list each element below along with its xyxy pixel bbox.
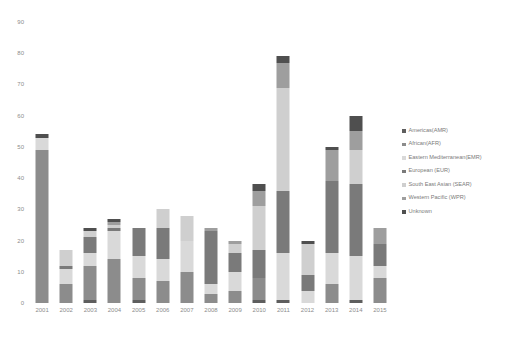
legend-item[interactable]: Americas(AMR) [402, 124, 512, 138]
bar-segment [229, 291, 242, 303]
bar-segment [84, 266, 97, 300]
bar-segment [277, 253, 290, 300]
y-axis-tick-label: 40 [17, 175, 24, 181]
bar-segment [373, 266, 386, 278]
chart-legend: Americas(AMR)African(AFR)Eastern Mediter… [402, 124, 512, 219]
x-axis-tick-label: 2002 [60, 307, 73, 313]
bar-2013[interactable] [325, 147, 338, 303]
legend-swatch-icon [402, 170, 406, 174]
y-axis-tick-label: 10 [17, 269, 24, 275]
y-axis-tick-label: 50 [17, 144, 24, 150]
x-axis-tick-label: 2006 [156, 307, 169, 313]
bar-segment [349, 116, 362, 132]
bar-segment [349, 184, 362, 256]
bar-2008[interactable] [205, 228, 218, 303]
legend-label: South East Asian (SEAR) [409, 182, 472, 188]
bar-2015[interactable] [373, 228, 386, 303]
bar-2003[interactable] [84, 228, 97, 303]
legend-label: Western Pacific (WPR) [409, 195, 466, 201]
bar-2006[interactable] [156, 209, 169, 303]
bar-2005[interactable] [132, 228, 145, 303]
x-axis: 2001200220032004200520062007200820092010… [30, 307, 392, 323]
x-axis-tick-label: 2007 [180, 307, 193, 313]
bar-segment [205, 294, 218, 303]
bar-segment [253, 250, 266, 278]
bar-segment [325, 284, 338, 303]
bar-segment [253, 300, 266, 303]
legend-item[interactable]: Western Pacific (WPR) [402, 192, 512, 206]
bar-segment [349, 256, 362, 300]
legend-item[interactable]: African(AFR) [402, 138, 512, 152]
legend-label: Americas(AMR) [409, 128, 448, 134]
chart-container: 0102030405060708090 20012002200320042005… [0, 0, 512, 339]
bar-2007[interactable] [180, 216, 193, 303]
y-axis-tick-label: 70 [17, 81, 24, 87]
bar-2009[interactable] [229, 241, 242, 303]
y-axis: 0102030405060708090 [0, 0, 30, 339]
legend-item[interactable]: South East Asian (SEAR) [402, 178, 512, 192]
legend-item[interactable]: European (EUR) [402, 165, 512, 179]
bar-segment [229, 253, 242, 272]
bar-segment [180, 216, 193, 241]
bar-segment [84, 253, 97, 265]
bar-segment [60, 269, 73, 285]
bar-2012[interactable] [301, 241, 314, 303]
bar-segment [156, 228, 169, 259]
x-axis-tick-label: 2013 [325, 307, 338, 313]
y-axis-tick-label: 90 [17, 19, 24, 25]
plot-area [30, 22, 392, 303]
bar-2004[interactable] [108, 219, 121, 303]
bar-segment [132, 228, 145, 256]
legend-swatch-icon [402, 210, 406, 214]
bar-segment [60, 284, 73, 303]
x-axis-tick-label: 2010 [253, 307, 266, 313]
legend-label: Eastern Mediterranean(EMR) [409, 155, 482, 161]
bar-segment [325, 150, 338, 181]
legend-item[interactable]: Unknown [402, 205, 512, 219]
bar-segment [277, 300, 290, 303]
legend-swatch-icon [402, 143, 406, 147]
bar-segment [84, 300, 97, 303]
bar-segment [60, 250, 73, 266]
bar-segment [349, 150, 362, 184]
bar-segment [277, 191, 290, 253]
y-axis-tick-label: 20 [17, 238, 24, 244]
bar-segment [180, 272, 193, 303]
bar-2001[interactable] [36, 134, 49, 303]
x-axis-tick-label: 2005 [132, 307, 145, 313]
legend-label: European (EUR) [409, 168, 450, 174]
bar-segment [301, 291, 314, 303]
bar-2010[interactable] [253, 184, 266, 303]
bar-2002[interactable] [60, 250, 73, 303]
legend-item[interactable]: Eastern Mediterranean(EMR) [402, 151, 512, 165]
x-axis-tick-label: 2012 [301, 307, 314, 313]
bar-segment [132, 300, 145, 303]
bar-2011[interactable] [277, 56, 290, 303]
bar-2014[interactable] [349, 116, 362, 303]
bar-segment [253, 206, 266, 250]
bar-segment [205, 284, 218, 293]
y-axis-tick-label: 60 [17, 113, 24, 119]
bar-segment [108, 231, 121, 259]
bar-segment [301, 275, 314, 291]
bar-segment [205, 231, 218, 284]
x-axis-tick-label: 2015 [373, 307, 386, 313]
x-axis-tick-label: 2001 [35, 307, 48, 313]
x-axis-tick-label: 2011 [277, 307, 290, 313]
bar-segment [36, 138, 49, 150]
legend-swatch-icon [402, 129, 406, 133]
bar-segment [156, 209, 169, 228]
x-axis-tick-label: 2014 [349, 307, 362, 313]
bar-segment [373, 244, 386, 266]
bar-segment [373, 228, 386, 244]
legend-swatch-icon [402, 156, 406, 160]
bar-segment [180, 241, 193, 272]
bar-segment [132, 278, 145, 300]
legend-swatch-icon [402, 197, 406, 201]
legend-label: African(AFR) [409, 141, 441, 147]
bar-segment [349, 131, 362, 150]
bar-segment [229, 244, 242, 253]
x-axis-tick-label: 2009 [228, 307, 241, 313]
bar-segment [156, 259, 169, 281]
x-axis-tick-label: 2003 [84, 307, 97, 313]
